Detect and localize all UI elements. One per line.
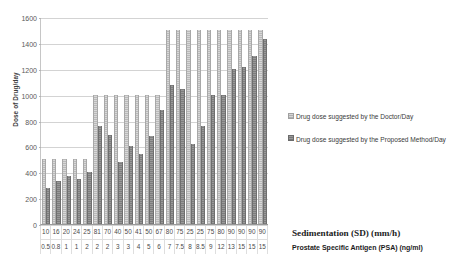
plot-area: 02004006008001000120014001600 [40, 18, 268, 225]
x-tick-label-psa: 12 [216, 240, 226, 254]
bar-group [93, 18, 103, 224]
bar-group [144, 18, 154, 224]
bar-proposed[interactable] [191, 144, 195, 224]
x-tick-label-sd: 25 [196, 226, 206, 240]
x-tick-label-sd: 90 [258, 226, 268, 240]
x-tick-label-psa: 3 [113, 240, 123, 254]
x-axis-caption-sedimentation: Sedimentation (SD) (mm/h) [292, 226, 455, 240]
x-tick-label-psa: 1 [62, 240, 72, 254]
y-axis-tick-label: 1400 [0, 40, 37, 47]
bar-proposed[interactable] [67, 176, 71, 224]
y-axis-tick-label: 400 [0, 170, 37, 177]
x-tick-label-psa: 2 [103, 240, 113, 254]
bar-group [103, 18, 113, 224]
bar-proposed[interactable] [180, 89, 184, 224]
bar-group [258, 18, 268, 224]
x-tick-label-psa: 7.5 [175, 240, 185, 254]
x-tick-label-psa: 4 [134, 240, 144, 254]
legend-label-proposed: Drug dose suggested by the Proposed Meth… [296, 135, 446, 145]
x-tick-label-sd: 75 [206, 226, 216, 240]
bar-group [124, 18, 134, 224]
bar-group [154, 18, 164, 224]
bar-group [185, 18, 195, 224]
x-tick-label-psa: 13 [227, 240, 237, 254]
x-tick-label-psa: 8 [185, 240, 195, 254]
x-axis-labels: 1016202425817040504150678075252575809090… [40, 226, 268, 254]
x-axis-captions: Sedimentation (SD) (mm/h) Prostate Speci… [292, 226, 455, 254]
bar-proposed[interactable] [108, 135, 112, 224]
chart-legend: Drug dose suggested by the Doctor/Day Dr… [288, 112, 455, 157]
x-tick-label-sd: 40 [113, 226, 123, 240]
x-tick-label-sd: 70 [103, 226, 113, 240]
x-tick-label-sd: 10 [40, 226, 51, 240]
x-tick-label-sd: 81 [93, 226, 103, 240]
bar-proposed[interactable] [242, 67, 246, 224]
bar-proposed[interactable] [56, 181, 60, 224]
bar-group [62, 18, 72, 224]
legend-item-proposed[interactable]: Drug dose suggested by the Proposed Meth… [288, 135, 455, 145]
x-tick-label-sd: 25 [82, 226, 92, 240]
bar-group [196, 18, 206, 224]
x-tick-label-sd: 41 [134, 226, 144, 240]
x-tick-label-psa: 15 [258, 240, 268, 254]
y-axis-tick-label: 800 [0, 118, 37, 125]
y-axis-tick-label: 1600 [0, 15, 37, 22]
bar-group [134, 18, 144, 224]
x-tick-label-sd: 67 [154, 226, 164, 240]
x-tick-label-psa: 7 [165, 240, 175, 254]
x-tick-label-sd: 50 [144, 226, 154, 240]
bar-proposed[interactable] [46, 188, 50, 224]
bar-group [72, 18, 82, 224]
bar-proposed[interactable] [98, 126, 102, 224]
legend-swatch-icon-proposed [288, 135, 294, 141]
x-tick-label-psa: 6 [154, 240, 164, 254]
bar-proposed[interactable] [139, 154, 143, 225]
bar-proposed[interactable] [87, 172, 91, 224]
x-tick-label-psa: 5 [144, 240, 154, 254]
x-tick-label-psa: 15 [237, 240, 247, 254]
y-axis-tick-label: 1200 [0, 66, 37, 73]
bar-proposed[interactable] [232, 69, 236, 224]
bar-proposed[interactable] [149, 136, 153, 224]
bar-proposed[interactable] [118, 162, 122, 224]
bar-series-area [41, 18, 268, 224]
bar-proposed[interactable] [252, 56, 256, 224]
bar-group [51, 18, 61, 224]
x-axis-row-sedimentation: 1016202425817040504150678075252575809090… [40, 226, 268, 240]
x-tick-label-psa: 2 [82, 240, 92, 254]
y-axis-tick-label: 600 [0, 144, 37, 151]
bar-proposed[interactable] [160, 110, 164, 224]
bar-proposed[interactable] [211, 95, 215, 224]
x-tick-label-sd: 25 [185, 226, 195, 240]
x-tick-label-sd: 90 [247, 226, 257, 240]
x-tick-label-psa: 2 [93, 240, 103, 254]
x-tick-label-sd: 90 [237, 226, 247, 240]
x-tick-label-sd: 50 [124, 226, 134, 240]
x-tick-label-sd: 80 [216, 226, 226, 240]
bar-group [216, 18, 226, 224]
x-tick-label-sd: 24 [72, 226, 82, 240]
bar-proposed[interactable] [221, 95, 225, 224]
y-axis-tick-label: 0 [0, 222, 37, 229]
x-tick-label-sd: 75 [175, 226, 185, 240]
legend-swatch-icon-doctor [288, 113, 294, 119]
x-tick-label-sd: 90 [227, 226, 237, 240]
bar-proposed[interactable] [263, 39, 267, 224]
x-tick-label-sd: 20 [62, 226, 72, 240]
bar-proposed[interactable] [170, 85, 174, 224]
y-axis-tick-label: 1000 [0, 92, 37, 99]
bar-group [247, 18, 257, 224]
bar-group [175, 18, 185, 224]
x-axis-caption-psa: Prostate Specific Antigen (PSA) (ng/ml) [292, 240, 455, 254]
x-tick-label-sd: 80 [165, 226, 175, 240]
bar-proposed[interactable] [201, 126, 205, 224]
legend-label-doctor: Drug dose suggested by the Doctor/Day [296, 112, 413, 122]
chart-container: Dose of Drug/day 02004006008001000120014… [0, 0, 455, 274]
bar-proposed[interactable] [77, 179, 81, 224]
bar-proposed[interactable] [129, 146, 133, 224]
bar-group [237, 18, 247, 224]
legend-item-doctor[interactable]: Drug dose suggested by the Doctor/Day [288, 112, 455, 122]
y-axis-tick-label: 200 [0, 196, 37, 203]
x-tick-label-psa: 15 [247, 240, 257, 254]
bar-group [82, 18, 92, 224]
